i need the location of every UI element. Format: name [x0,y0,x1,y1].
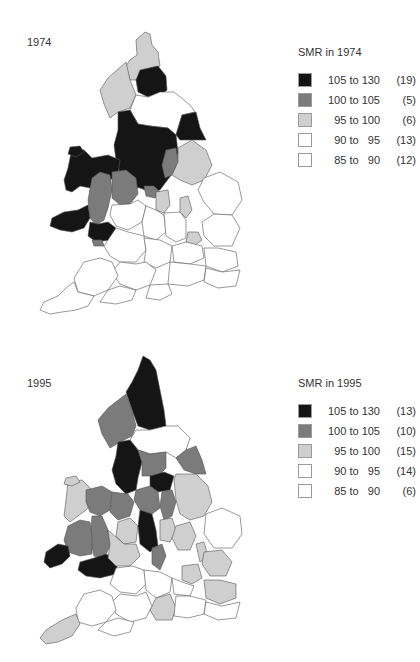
region [90,516,110,558]
legend-range: 85 to 90 [322,154,380,166]
legend-item: 105 to 130 (19) [298,70,416,90]
map-panel-1974: 1974 [0,0,420,330]
region [138,510,158,552]
region [144,570,172,598]
legend-item: 100 to 105 (10) [298,421,416,441]
region [204,508,242,548]
region [172,242,204,264]
region [88,172,112,225]
map-panel-1995: 1995 [0,330,420,662]
choropleth-map-1995 [0,330,290,662]
legend-range: 105 to 130 [322,74,380,86]
region [110,200,146,230]
legend-title: SMR in 1974 [298,46,416,58]
legend-title: SMR in 1995 [298,377,416,389]
region [202,214,240,246]
region [204,602,240,620]
legend-range: 95 to 100 [322,445,380,457]
region [134,486,160,514]
legend-range: 95 to 100 [322,114,380,126]
legend-count: (12) [386,154,416,166]
legend-range: 100 to 105 [322,94,380,106]
region [40,614,80,644]
region [110,566,146,594]
choropleth-map-1974 [0,0,290,330]
legend-count: (19) [386,74,416,86]
legend-range: 100 to 105 [322,425,380,437]
region [174,596,206,618]
legend-swatch [298,444,312,458]
legend-swatch [298,153,312,167]
region [50,205,90,232]
region [138,450,166,476]
legend-range: 90 to 95 [322,465,380,477]
legend-count: (13) [386,405,416,417]
legend-swatch [298,113,312,127]
region [198,172,242,215]
region [146,284,172,300]
legend-swatch [298,464,312,478]
region [168,262,206,286]
legend-1995: SMR in 1995 105 to 130 (13) 100 to 105 (… [298,377,416,501]
legend-item: 95 to 100 (6) [298,110,416,130]
legend-item: 95 to 100 (15) [298,441,416,461]
region [44,544,70,568]
legend-1974: SMR in 1974 105 to 130 (19) 100 to 105 (… [298,46,416,170]
legend-range: 85 to 90 [322,485,380,497]
region [150,594,176,620]
region [164,212,186,242]
legend-item: 85 to 90 (12) [298,150,416,170]
region [172,522,196,550]
region [110,492,134,520]
region [204,248,238,272]
region [86,486,112,516]
legend-swatch [298,133,312,147]
legend-item: 90 to 95 (13) [298,130,416,150]
region [204,580,236,604]
region [160,490,176,520]
legend-count: (15) [386,445,416,457]
region [112,262,156,290]
legend-count: (6) [386,485,416,497]
legend-swatch [298,93,312,107]
legend-count: (13) [386,134,416,146]
legend-swatch [298,484,312,498]
legend-swatch [298,404,312,418]
legend-count: (5) [386,94,416,106]
region [92,240,104,246]
legend-item: 100 to 105 (5) [298,90,416,110]
legend-count: (10) [386,425,416,437]
region [152,544,166,570]
legend-range: 105 to 130 [322,405,380,417]
region [112,592,152,622]
legend-swatch [298,424,312,438]
legend-item: 105 to 130 (13) [298,401,416,421]
region [174,474,212,520]
legend-range: 90 to 95 [322,134,380,146]
region [156,190,170,213]
legend-count: (14) [386,465,416,477]
legend-item: 90 to 95 (14) [298,461,416,481]
legend-swatch [298,73,312,87]
legend-item: 85 to 90 (6) [298,481,416,501]
region [182,564,202,584]
legend-count: (6) [386,114,416,126]
region [202,550,232,576]
